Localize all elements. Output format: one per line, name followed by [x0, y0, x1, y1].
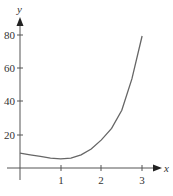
x-axis-label: x	[163, 162, 169, 174]
x-tick-label: 1	[58, 174, 64, 186]
x-tick-label: 2	[98, 174, 104, 186]
y-tick-label: 40	[4, 95, 16, 107]
y-tick-label: 80	[4, 29, 16, 41]
x-tick-label: 3	[139, 174, 145, 186]
y-axis-arrow-icon	[17, 17, 24, 26]
y-tick-label: 20	[4, 129, 16, 141]
y-tick-label: 60	[4, 62, 16, 74]
chart: y x 20 40 60 80 1 2 3	[0, 0, 173, 196]
y-axis-label: y	[16, 3, 22, 15]
x-axis-arrow-icon	[153, 165, 162, 172]
data-curve	[20, 36, 142, 159]
